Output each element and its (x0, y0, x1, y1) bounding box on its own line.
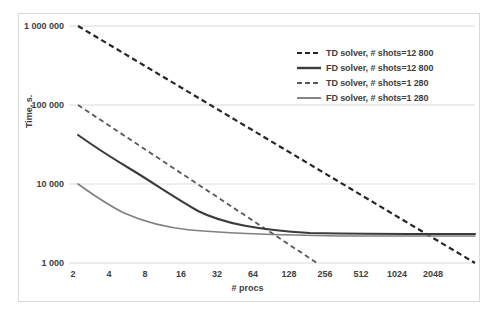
legend-item[interactable]: FD solver, # shots=1 280 (296, 91, 433, 104)
x-tick-label: 2 (61, 269, 85, 279)
legend-item[interactable]: FD solver, # shots=12 800 (296, 61, 433, 74)
legend-item-label: TD solver, # shots=1 280 (326, 78, 428, 88)
x-tick-label: 512 (348, 269, 374, 279)
legend-item-label: FD solver, # shots=12 800 (326, 63, 433, 73)
chart-legend: TD solver, # shots=12 800 FD solver, # s… (296, 46, 433, 104)
legend-dashed-line-icon (296, 77, 322, 89)
y-tick-label: 1 000 000 (2, 21, 64, 31)
x-tick-label: 16 (169, 269, 193, 279)
legend-dashed-line-icon (296, 47, 322, 59)
y-tick-label: 1 000 (2, 258, 64, 268)
x-tick-label: 1024 (382, 269, 412, 279)
x-axis-title: # procs (0, 283, 495, 293)
legend-item[interactable]: TD solver, # shots=1 280 (296, 76, 433, 89)
x-tick-label: 32 (205, 269, 229, 279)
y-axis-title: Time, s. (24, 95, 34, 128)
x-tick-label: 128 (276, 269, 302, 279)
legend-item-label: FD solver, # shots=1 280 (326, 93, 428, 103)
x-tick-label: 4 (97, 269, 121, 279)
x-tick-label: 64 (241, 269, 265, 279)
legend-solid-line-icon (296, 92, 322, 104)
y-tick-label: 10 000 (2, 179, 64, 189)
x-tick-label: 2048 (418, 269, 448, 279)
legend-item[interactable]: TD solver, # shots=12 800 (296, 46, 433, 59)
series-fd-1280 (78, 184, 475, 236)
legend-item-label: TD solver, # shots=12 800 (326, 48, 433, 58)
x-tick-label: 256 (312, 269, 338, 279)
legend-solid-line-icon (296, 62, 322, 74)
x-tick-label: 8 (133, 269, 157, 279)
